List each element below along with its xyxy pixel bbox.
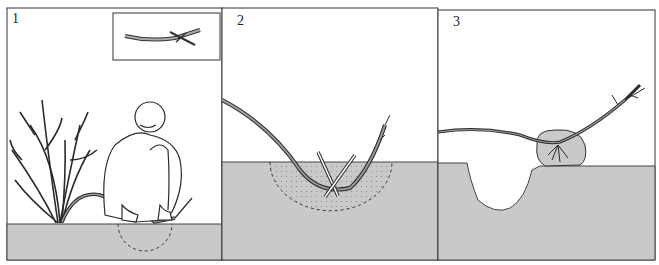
panel-number-3: 3	[453, 14, 460, 29]
ground-with-hole	[438, 163, 655, 260]
panel-number-2: 2	[237, 13, 244, 28]
illustration-canvas: 1 2 3	[0, 0, 659, 265]
panel-3: 3	[438, 10, 655, 260]
panel-number-1: 1	[12, 11, 19, 26]
panel-2: 2	[222, 8, 438, 260]
ground-panel-1	[7, 224, 222, 260]
layering-diagram: 1 2 3	[0, 0, 659, 265]
inset-wounded-branch	[113, 13, 220, 60]
panel-1: 1	[7, 8, 222, 260]
root-ball	[537, 130, 586, 166]
